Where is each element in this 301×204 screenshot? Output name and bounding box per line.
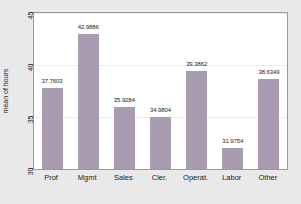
x-tick-label: Sales — [105, 173, 141, 182]
bar-value-label: 35.9284 — [106, 97, 142, 103]
bar-cler — [150, 117, 171, 169]
chart-figure: mean of hours 30354045 37.760342.988635.… — [0, 0, 301, 204]
bar-value-label: 37.7603 — [34, 78, 70, 84]
bar-mgmt — [78, 34, 99, 169]
y-axis: mean of hours 30354045 — [0, 0, 33, 182]
plot-area: 37.760342.988635.928434.980439.386231.97… — [34, 13, 287, 169]
bar-labor — [222, 148, 243, 169]
x-tick-label: Other — [250, 173, 286, 182]
bar-value-label: 34.9804 — [142, 107, 178, 113]
x-tick-label: Labor — [214, 173, 250, 182]
x-tick-label: Operat. — [178, 173, 214, 182]
bar-value-label: 31.9754 — [215, 138, 251, 144]
bar-prof — [42, 88, 63, 169]
x-tick-label: Mgmt — [69, 173, 105, 182]
bar-sales — [114, 107, 135, 169]
bar-value-label: 42.9886 — [70, 24, 106, 30]
gridline — [34, 13, 287, 14]
bar-other — [258, 79, 279, 169]
y-axis-title: mean of hours — [2, 69, 9, 114]
bar-value-label: 39.3862 — [179, 61, 215, 67]
bar-value-label: 38.6349 — [251, 69, 287, 75]
x-tick-label: Cler. — [141, 173, 177, 182]
x-tick-label: Prof — [33, 173, 69, 182]
plot-frame: 37.760342.988635.928434.980439.386231.97… — [33, 12, 288, 170]
gridline — [34, 65, 287, 66]
x-axis: ProfMgmtSalesCler.Operat.LaborOther — [33, 171, 288, 191]
bar-operat — [186, 71, 207, 169]
